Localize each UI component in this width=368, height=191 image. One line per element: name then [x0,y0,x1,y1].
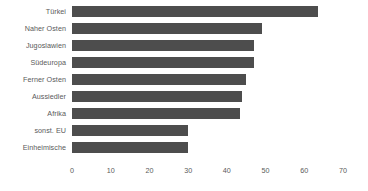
bar [72,40,254,51]
bar-row: Türkei [0,3,368,20]
x-tick-label: 0 [60,166,84,176]
bar-row: sonst. EU [0,122,368,139]
category-label: Jugoslawien [0,37,66,54]
category-label: Aussiedler [0,88,66,105]
bar-row: Aussiedler [0,88,368,105]
bar [72,142,188,153]
category-label: sonst. EU [0,122,66,139]
category-label: Naher Osten [0,20,66,37]
x-axis: 010203040506070 [0,160,368,191]
x-tick-label: 70 [331,166,355,176]
x-tick-label: 60 [292,166,316,176]
category-label: Afrika [0,105,66,122]
bar [72,6,318,17]
bar-row: Naher Osten [0,20,368,37]
category-label: Einheimische [0,139,66,156]
bar-chart: TürkeiNaher OstenJugoslawienSüdeuropaFer… [0,0,368,191]
x-tick-label: 30 [176,166,200,176]
bar-row: Einheimische [0,139,368,156]
bar [72,91,242,102]
bar [72,57,254,68]
bar [72,74,246,85]
bar-row: Südeuropa [0,54,368,71]
category-label: Südeuropa [0,54,66,71]
bar [72,23,262,34]
bar [72,108,240,119]
bar-row: Afrika [0,105,368,122]
x-tick-label: 20 [137,166,161,176]
category-label: Ferner Osten [0,71,66,88]
x-tick-label: 50 [254,166,278,176]
x-tick-label: 40 [215,166,239,176]
bar [72,125,188,136]
category-label: Türkei [0,3,66,20]
bar-row: Ferner Osten [0,71,368,88]
x-tick-label: 10 [99,166,123,176]
plot-area: TürkeiNaher OstenJugoslawienSüdeuropaFer… [0,0,368,160]
bar-row: Jugoslawien [0,37,368,54]
